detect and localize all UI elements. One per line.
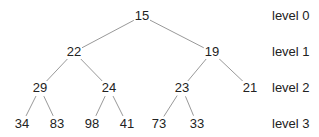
tree-edge xyxy=(44,96,53,116)
tree-edge xyxy=(82,20,134,48)
level-label: level 0 xyxy=(272,9,310,23)
level-label: level 2 xyxy=(272,81,310,95)
tree-node: 73 xyxy=(151,117,167,131)
tree-edge xyxy=(219,58,244,82)
level-label: level 3 xyxy=(272,117,310,131)
tree-edge xyxy=(188,59,206,81)
tree-node: 15 xyxy=(134,9,150,23)
tree-edge xyxy=(26,96,36,116)
tree-edge xyxy=(80,58,102,81)
tree-node: 29 xyxy=(32,81,48,95)
tree-edge xyxy=(96,96,105,116)
tree-node: 21 xyxy=(242,81,258,95)
tree-node: 34 xyxy=(14,117,30,131)
level-label: level 1 xyxy=(272,45,310,59)
tree-node: 83 xyxy=(49,117,65,131)
tree-node: 23 xyxy=(174,81,190,95)
tree-node: 19 xyxy=(204,45,220,59)
tree-node: 98 xyxy=(84,117,100,131)
tree-edge xyxy=(113,96,123,116)
tree-edge xyxy=(185,96,193,115)
tree-node: 22 xyxy=(66,45,82,59)
tree-edge xyxy=(164,96,177,117)
tree-node: 41 xyxy=(119,117,135,131)
tree-node: 33 xyxy=(189,117,205,131)
tree-node: 24 xyxy=(101,81,117,95)
tree-edge xyxy=(150,20,204,48)
tree-edge xyxy=(46,59,68,82)
